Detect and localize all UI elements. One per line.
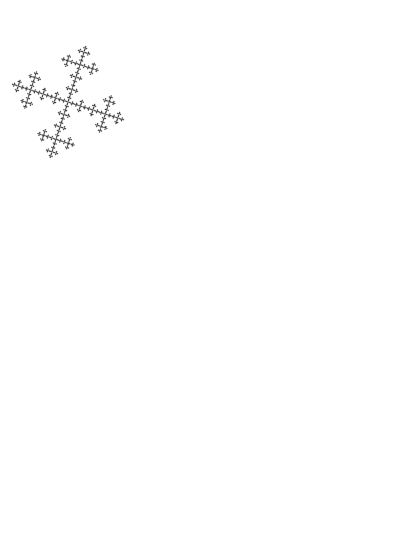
fractal-figure [0,0,406,553]
figure-background [0,0,406,553]
fractal-canvas [0,0,406,553]
